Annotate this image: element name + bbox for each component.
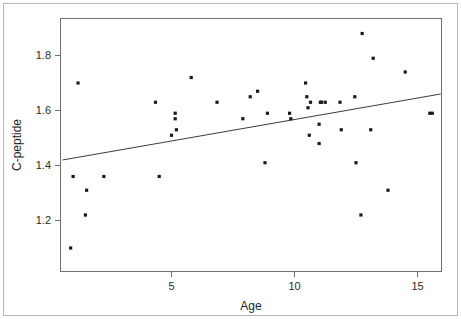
data-point <box>69 246 72 249</box>
data-point <box>249 95 252 98</box>
data-point <box>354 161 357 164</box>
data-point <box>154 101 157 104</box>
data-point <box>158 175 161 178</box>
data-point <box>320 101 323 104</box>
y-axis-ticks <box>55 56 60 221</box>
data-point <box>215 101 218 104</box>
data-point <box>404 70 407 73</box>
y-tick-label-1: 1.8 <box>36 49 51 61</box>
data-point <box>85 189 88 192</box>
data-point <box>72 175 75 178</box>
regression-line <box>63 94 441 160</box>
data-point <box>241 117 244 120</box>
data-point <box>102 175 105 178</box>
data-point <box>308 134 311 137</box>
data-point <box>318 142 321 145</box>
x-axis-ticks <box>172 272 418 277</box>
data-point <box>266 112 269 115</box>
data-point <box>76 81 79 84</box>
y-tick-label-2: 1.6 <box>36 104 51 116</box>
data-point <box>361 32 364 35</box>
data-point <box>263 161 266 164</box>
data-point <box>174 112 177 115</box>
data-point <box>175 128 178 131</box>
data-point <box>353 95 356 98</box>
x-tick-label-3: 15 <box>411 280 423 292</box>
plot-canvas: 1.8 1.6 1.4 1.2 5 10 15 Age C-peptide <box>0 0 461 319</box>
data-point <box>170 134 173 137</box>
data-point <box>305 95 308 98</box>
y-tick-labels: 1.8 1.6 1.4 1.2 <box>36 49 51 226</box>
data-point <box>190 76 193 79</box>
data-point <box>386 189 389 192</box>
scatter-plot-figure: 1.8 1.6 1.4 1.2 5 10 15 Age C-peptide <box>0 0 461 319</box>
data-point <box>338 101 341 104</box>
data-point <box>309 101 312 104</box>
data-point <box>340 128 343 131</box>
x-tick-label-1: 5 <box>168 280 174 292</box>
x-axis-title: Age <box>240 299 262 313</box>
data-point <box>324 101 327 104</box>
data-point <box>369 128 372 131</box>
y-tick-label-3: 1.4 <box>36 159 51 171</box>
y-tick-label-4: 1.2 <box>36 214 51 226</box>
data-point <box>174 117 177 120</box>
data-point <box>306 106 309 109</box>
y-axis-title: C-peptide <box>10 119 24 171</box>
data-point-group <box>69 32 434 250</box>
data-point <box>289 117 292 120</box>
data-point <box>318 123 321 126</box>
data-point <box>431 112 434 115</box>
data-point <box>288 112 291 115</box>
data-point <box>84 213 87 216</box>
data-point <box>304 81 307 84</box>
x-tick-labels: 5 10 15 <box>168 280 423 292</box>
x-tick-label-2: 10 <box>288 280 300 292</box>
data-point <box>372 57 375 60</box>
plot-frame <box>61 19 442 272</box>
data-point <box>359 213 362 216</box>
data-point <box>256 90 259 93</box>
